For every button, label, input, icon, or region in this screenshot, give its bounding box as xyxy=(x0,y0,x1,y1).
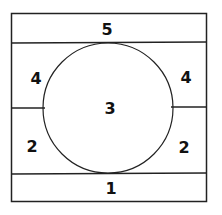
label-center: 3 xyxy=(104,99,115,118)
region-diagram: 5 4 4 3 2 2 1 xyxy=(0,0,222,215)
label-lower-left: 2 xyxy=(26,137,37,156)
label-bottom: 1 xyxy=(105,179,116,198)
label-upper-left: 4 xyxy=(30,69,41,88)
label-top: 5 xyxy=(101,20,112,39)
label-lower-right: 2 xyxy=(178,138,189,157)
label-upper-right: 4 xyxy=(180,68,191,87)
